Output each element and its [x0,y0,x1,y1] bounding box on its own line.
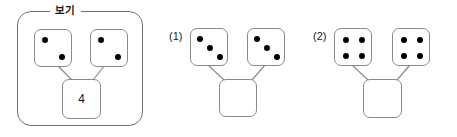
pip [359,37,365,43]
example-panel-legend: 보기 [50,4,81,16]
pip [343,37,349,43]
pip [217,54,223,60]
pip [59,54,65,60]
pip [254,36,260,42]
problem-1-connector-right [252,65,265,80]
example-result-value: 4 [78,93,85,105]
pip [359,53,365,59]
pip [417,37,423,43]
problem-2-connector-left [352,65,368,80]
problem-1-label: (1) [169,30,182,42]
pip [197,36,203,42]
problem-2-label: (2) [313,30,326,42]
pip [401,37,407,43]
example-die-left [34,29,72,67]
pip [274,54,280,60]
pip [401,53,407,59]
pip [42,37,48,43]
example-result-box: 4 [62,79,101,119]
problem-2-result-box[interactable] [363,79,402,118]
pip [343,53,349,59]
problem-2-die-left [334,28,372,66]
pip [417,53,423,59]
pip [207,45,213,51]
problem-2-die-right [392,28,430,66]
pip [115,54,121,60]
problem-1-connector-left [208,65,224,80]
example-die-right [90,29,128,67]
problem-1-die-right [247,28,285,66]
problem-1-result-box[interactable] [219,79,257,117]
pip [98,37,104,43]
problem-2-connector-right [397,65,410,80]
pip [264,45,270,51]
problem-1-die-left [190,28,228,66]
